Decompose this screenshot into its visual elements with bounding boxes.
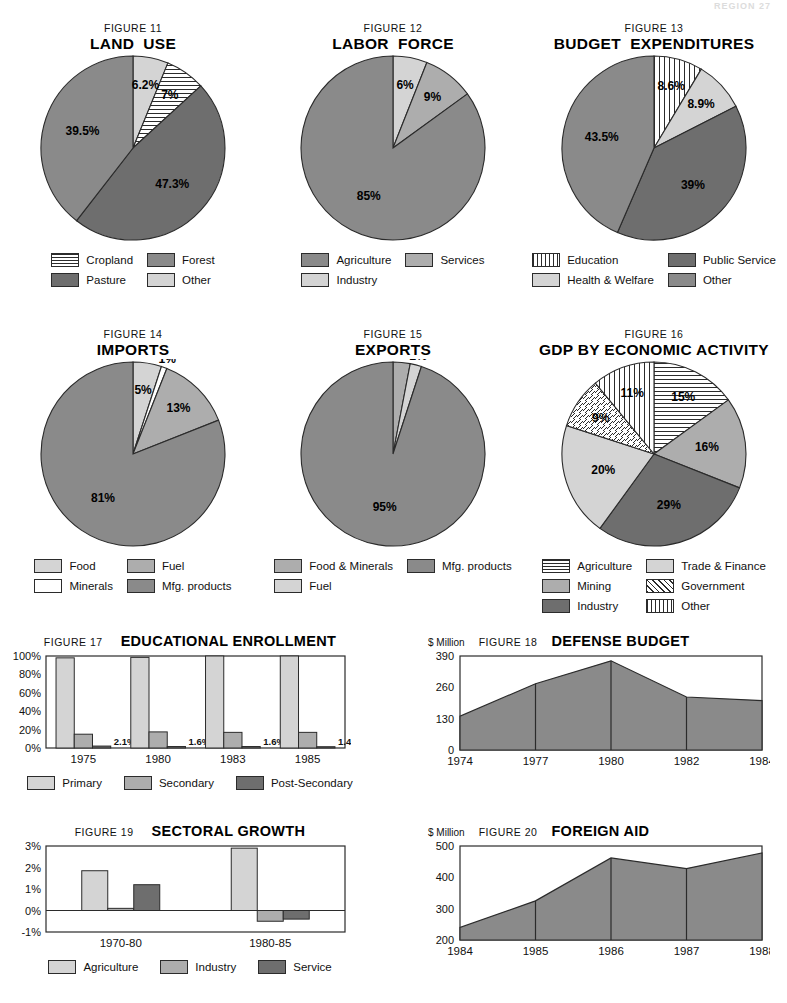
legend-item[interactable]: Industry <box>160 960 236 974</box>
bar[interactable] <box>108 908 134 910</box>
legend-item[interactable]: Other <box>668 273 776 287</box>
bar[interactable] <box>149 732 167 748</box>
legend-item[interactable]: Secondary <box>124 776 214 790</box>
y-tick-label: -1% <box>21 926 41 938</box>
legend-item[interactable]: Industry <box>301 273 391 287</box>
y-tick-label: 260 <box>436 681 454 693</box>
figure-16-legend: AgricultureTrade & FinanceMiningGovernme… <box>528 559 780 613</box>
legend-item[interactable]: Primary <box>27 776 102 790</box>
legend-item[interactable]: Health & Welfare <box>532 273 654 287</box>
bar[interactable] <box>280 656 298 748</box>
bar[interactable] <box>299 732 317 748</box>
bar[interactable] <box>92 746 110 748</box>
pie-slice[interactable] <box>301 362 485 546</box>
bar[interactable] <box>167 747 185 748</box>
x-tick-label: 1983 <box>220 753 246 765</box>
legend-item[interactable]: Cropland <box>51 253 133 267</box>
legend-item[interactable]: Trade & Finance <box>646 559 766 573</box>
legend-item[interactable]: Pasture <box>51 273 133 287</box>
pie-slice-label: 95% <box>373 500 397 514</box>
figure-12-title: LABOR FORCE <box>268 35 518 53</box>
figure-16-title: GDP BY ECONOMIC ACTIVITY <box>528 341 780 359</box>
legend-label: Post-Secondary <box>271 777 353 789</box>
legend-swatch-icon <box>405 253 433 267</box>
legend-item[interactable]: Agriculture <box>301 253 391 267</box>
legend-item[interactable]: Forest <box>147 253 215 267</box>
bar[interactable] <box>317 747 335 748</box>
bar[interactable] <box>131 657 149 748</box>
figure-11-legend: CroplandForestPastureOther <box>8 253 258 287</box>
legend-item[interactable]: Industry <box>542 599 632 613</box>
bar[interactable] <box>74 734 92 748</box>
bar[interactable] <box>242 747 260 748</box>
figure-19-plot: -1%0%1%2%3%.1%1970-801980-85 <box>6 840 374 956</box>
bar[interactable] <box>82 871 108 911</box>
y-tick-label: 500 <box>436 840 454 852</box>
y-tick-label: 60% <box>19 687 41 699</box>
y-tick-label: 1% <box>25 883 41 895</box>
pie-slice-label: 8.9% <box>687 97 715 111</box>
legend-item[interactable]: Agriculture <box>48 960 138 974</box>
legend-item[interactable]: Minerals <box>34 579 112 593</box>
legend-label: Cropland <box>86 254 133 266</box>
legend-item[interactable]: Government <box>646 579 766 593</box>
bar[interactable] <box>283 911 309 920</box>
bar[interactable] <box>134 885 160 911</box>
pie-slice-label: 9% <box>424 90 442 104</box>
figure-19-title: SECTORAL GROWTH <box>151 822 305 840</box>
figure-20-svg: 20030040050019841985198619871988 <box>418 840 770 960</box>
pie-slice-label: 15% <box>671 390 695 404</box>
legend-item[interactable]: Fuel <box>127 559 232 573</box>
bar[interactable] <box>224 732 242 748</box>
legend-label: Government <box>681 580 744 592</box>
legend-item[interactable]: Mining <box>542 579 632 593</box>
figure-12-number: FIGURE 12 <box>268 22 518 35</box>
legend-item[interactable]: Other <box>147 273 215 287</box>
legend-label: Public Service <box>703 254 776 266</box>
x-tick-label: 1980 <box>598 755 624 767</box>
legend-item[interactable]: Other <box>646 599 766 613</box>
figure-18-number: FIGURE 18 <box>479 636 538 649</box>
legend-swatch-icon <box>646 559 674 573</box>
legend-item[interactable]: Fuel <box>274 579 393 593</box>
legend-label: Trade & Finance <box>681 560 766 572</box>
bar[interactable] <box>231 848 257 910</box>
figure-16-block: FIGURE 16 GDP BY ECONOMIC ACTIVITY 15%16… <box>528 328 780 613</box>
legend-swatch-icon <box>274 559 302 573</box>
figure-16-number: FIGURE 16 <box>528 328 780 341</box>
figure-18-unit: $ Million <box>428 637 465 648</box>
figure-17-head: FIGURE 17 EDUCATIONAL ENROLLMENT <box>6 632 374 650</box>
legend-swatch-icon <box>274 579 302 593</box>
legend-item[interactable]: Service <box>258 960 331 974</box>
legend-label: Pasture <box>86 274 126 286</box>
pie-slice-label: 1% <box>159 359 177 366</box>
legend-swatch-icon <box>48 960 76 974</box>
bar[interactable] <box>56 658 74 748</box>
legend-label: Agriculture <box>336 254 391 266</box>
legend-label: Secondary <box>159 777 214 789</box>
bar[interactable] <box>206 656 224 748</box>
legend-item[interactable]: Public Service <box>668 253 776 267</box>
legend-item[interactable]: Agriculture <box>542 559 632 573</box>
legend-swatch-icon <box>542 579 570 593</box>
figure-13-title: BUDGET EXPENDITURES <box>528 35 780 53</box>
figure-20-title: FOREIGN AID <box>551 822 649 840</box>
legend-item[interactable]: Post-Secondary <box>236 776 353 790</box>
legend-item[interactable]: Education <box>532 253 654 267</box>
bar[interactable] <box>257 911 283 922</box>
legend-label: Industry <box>336 274 377 286</box>
figure-20-block: $ Million FIGURE 20 FOREIGN AID 20030040… <box>418 822 778 964</box>
legend-label: Industry <box>577 600 618 612</box>
legend-item[interactable]: Food <box>34 559 112 573</box>
legend-label: Other <box>182 274 211 286</box>
figure-14-block: FIGURE 14 IMPORTS 5%1%13%81% FoodFuelMin… <box>8 328 258 593</box>
x-tick-label: 1974 <box>447 755 473 767</box>
pie-slice-label: 13% <box>167 401 191 415</box>
legend-item[interactable]: Mfg. products <box>127 579 232 593</box>
figure-12-svg: 6%9%85% <box>298 53 488 243</box>
legend-swatch-icon <box>124 776 152 790</box>
figure-17-legend: PrimarySecondaryPost-Secondary <box>6 776 374 790</box>
legend-item[interactable]: Mfg. products <box>407 559 512 573</box>
legend-item[interactable]: Services <box>405 253 484 267</box>
legend-item[interactable]: Food & Minerals <box>274 559 393 573</box>
